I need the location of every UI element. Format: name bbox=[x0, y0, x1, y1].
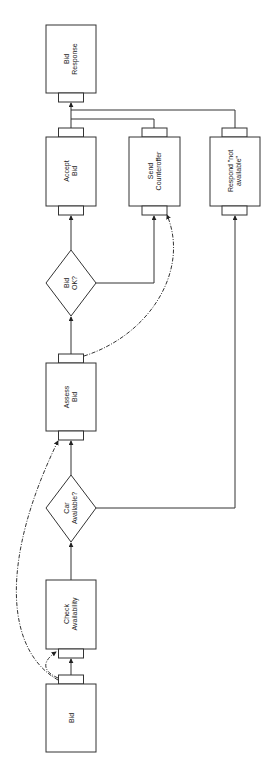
flowchart-canvas: BidResponse AcceptBid SendCounteroffer R… bbox=[0, 0, 262, 774]
label-bid: Bid bbox=[68, 713, 75, 723]
label-respond-not-available: Respond "notavailable" bbox=[227, 150, 242, 192]
label-bid-ok: BidOK? bbox=[63, 276, 78, 290]
